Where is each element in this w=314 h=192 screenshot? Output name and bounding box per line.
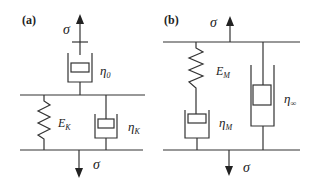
up-arrow-icon <box>226 16 234 26</box>
bottom-stress-label: σ <box>243 160 251 175</box>
kelvin-spring-label: EK <box>57 116 71 132</box>
top-stress-label: σ <box>210 15 218 30</box>
kelvin-dashpot <box>95 95 117 150</box>
bottom-stress-label: σ <box>93 157 101 172</box>
top-stress-label: σ <box>63 22 71 37</box>
down-arrow-icon <box>225 166 233 176</box>
kelvin-spring <box>38 95 50 150</box>
panel-a-label: (a) <box>22 13 36 27</box>
series-dashpot-label: η0 <box>100 63 110 80</box>
panel-a: (a) σ η0 EK ηK σ <box>20 13 145 178</box>
parallel-dashpot <box>251 42 274 150</box>
panel-b: (b) σ EM ηM η∞ σ <box>163 13 300 176</box>
maxwell-spring-label: EM <box>215 64 231 80</box>
down-arrow-icon <box>75 168 83 178</box>
up-arrow-icon <box>76 14 84 24</box>
series-dashpot <box>68 53 92 95</box>
panel-b-label: (b) <box>164 13 179 27</box>
rheological-diagram: (a) σ η0 EK ηK σ <box>0 0 314 192</box>
parallel-dashpot-label: η∞ <box>284 91 296 108</box>
maxwell-dashpot <box>185 110 209 150</box>
kelvin-dashpot-label: ηK <box>128 119 140 136</box>
maxwell-dashpot-label: ηM <box>219 115 233 132</box>
maxwell-spring <box>189 42 203 114</box>
